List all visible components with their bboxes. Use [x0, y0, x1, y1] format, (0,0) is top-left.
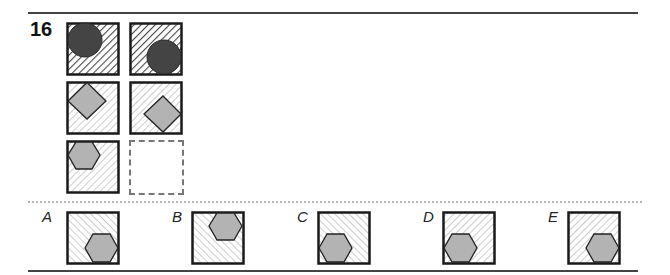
hexagon-shape	[319, 234, 352, 262]
option-label-e: E	[548, 208, 558, 225]
option-b[interactable]	[191, 211, 245, 265]
grid-cell-r1c1	[66, 22, 120, 76]
grid-cell-r2c2	[129, 81, 183, 135]
question-number: 16	[30, 18, 52, 41]
grid-cell-r3c1	[66, 140, 120, 194]
option-label-c: C	[297, 208, 308, 225]
bottom-rule	[28, 270, 638, 272]
option-d[interactable]	[442, 211, 496, 265]
hexagon-shape	[85, 234, 118, 262]
hexagon-shape	[444, 234, 477, 262]
circle-shape	[147, 40, 181, 74]
grid-cell-r2c1	[66, 81, 120, 135]
missing-cell	[129, 140, 184, 195]
hexagon-shape	[586, 234, 619, 262]
option-label-b: B	[172, 208, 182, 225]
top-rule	[28, 12, 638, 14]
grid-cell-r1c2	[129, 22, 183, 76]
option-a[interactable]	[66, 211, 120, 265]
option-e[interactable]	[567, 211, 621, 265]
option-label-a: A	[42, 208, 52, 225]
circle-shape	[68, 23, 102, 57]
separator-dotted	[28, 201, 642, 203]
hexagon-shape	[209, 213, 242, 240]
option-c[interactable]	[317, 211, 371, 265]
option-label-d: D	[423, 208, 434, 225]
